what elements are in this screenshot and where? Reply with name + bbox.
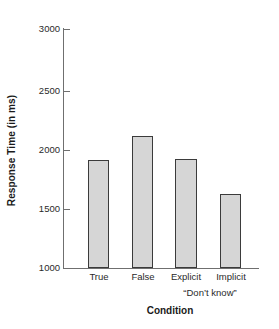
y-tick-label-2000: 2000 [26, 145, 60, 155]
x-tick-label-implicit: Implicit [206, 271, 256, 283]
y-axis-tick-labels: 3000 2500 2000 1500 1000 [24, 28, 60, 269]
y-axis-line [63, 28, 64, 269]
x-axis-line [63, 268, 259, 269]
y-tick-label-1000: 1000 [26, 263, 60, 273]
bar-implicit [220, 194, 241, 268]
x-tick-label-true: True [74, 271, 124, 283]
y-tick-label-3000: 3000 [26, 24, 60, 34]
y-tick-mark-1000 [64, 268, 70, 269]
y-axis-title: Response Time (in ms) [2, 40, 22, 260]
y-tick-mark-2500 [64, 91, 70, 92]
x-tick-label-explicit: Explicit [161, 271, 211, 283]
group-label-dont-know: “Don’t know” [160, 287, 260, 298]
y-tick-mark-2000 [64, 150, 70, 151]
bar-chart-figure: Response Time (in ms) 3000 2500 2000 150… [0, 0, 279, 329]
plot-area [63, 28, 259, 269]
bar-explicit [175, 159, 197, 268]
y-tick-mark-1500 [64, 209, 70, 210]
bar-true [88, 160, 109, 268]
y-tick-label-2500: 2500 [26, 86, 60, 96]
x-axis-title: Condition [120, 305, 220, 316]
y-tick-label-1500: 1500 [26, 204, 60, 214]
bar-false [132, 136, 153, 268]
y-tick-mark-3000 [64, 29, 70, 30]
y-axis-title-label: Response Time (in ms) [7, 94, 18, 205]
x-axis-tick-labels: True False Explicit Implicit [63, 271, 263, 285]
